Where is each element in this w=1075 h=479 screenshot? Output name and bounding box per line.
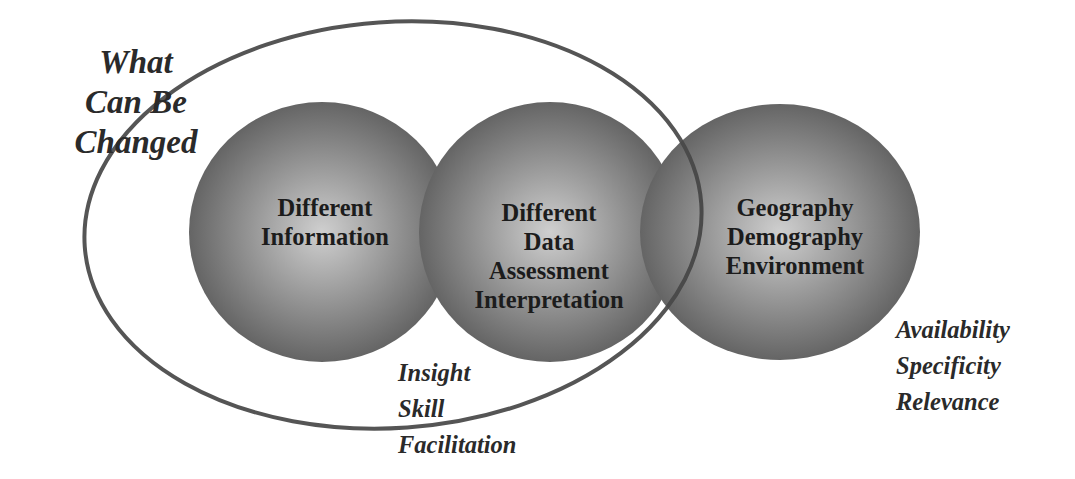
label-context: Geography Demography Environment [726,193,864,280]
label-line: Demography [726,222,864,251]
annotation-line: Facilitation [398,427,516,463]
label-line: Assessment [474,256,623,285]
title-line: What [62,42,210,82]
label-line: Different [261,193,389,222]
title-line: Can Be [62,82,210,122]
label-different-information: Different Information [261,193,389,251]
label-line: Interpretation [474,285,623,314]
label-different-data: Different Data Assessment Interpretation [474,198,623,314]
annotation-human-factors: Insight Skill Facilitation [398,355,516,463]
annotation-line: Relevance [896,384,1010,420]
annotation-line: Insight [398,355,516,391]
annotation-line: Skill [398,391,516,427]
annotation-data-qualities: Availability Specificity Relevance [896,312,1010,420]
label-line: Information [261,222,389,251]
label-line: Environment [726,251,864,280]
label-line: Geography [726,193,864,222]
annotation-line: Specificity [896,348,1010,384]
label-line: Data [474,227,623,256]
annotation-line: Availability [896,312,1010,348]
title-what-can-be-changed: What Can Be Changed [62,42,210,162]
title-line: Changed [62,122,210,162]
label-line: Different [474,198,623,227]
